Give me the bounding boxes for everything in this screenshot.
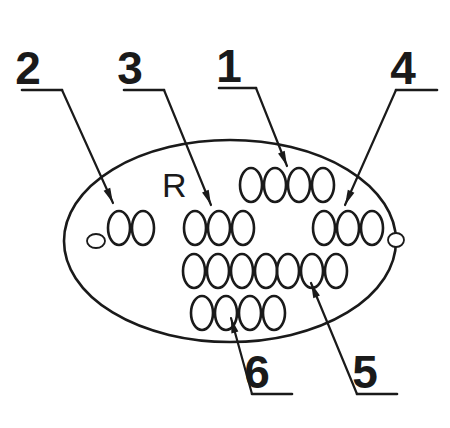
plate-letter-group: R xyxy=(162,166,187,204)
right-mount-hole-icon xyxy=(388,233,404,247)
nameplate-callout-diagram: R 231465 xyxy=(0,0,450,428)
plate-letter-R: R xyxy=(162,166,187,204)
diagram-canvas: R 231465 xyxy=(0,0,450,428)
left-mount-hole-icon xyxy=(87,234,105,248)
callout-2-leader-line xyxy=(62,90,113,203)
callout-6-label: 6 xyxy=(244,346,270,398)
callout-1-label: 1 xyxy=(216,40,242,92)
nameplate-outline-group xyxy=(64,140,404,342)
callout-4-label: 4 xyxy=(390,42,416,94)
nameplate-ellipse xyxy=(64,140,396,342)
callout-3-label: 3 xyxy=(117,42,143,94)
callout-2-label: 2 xyxy=(15,42,41,94)
callout-5-label: 5 xyxy=(352,346,378,398)
